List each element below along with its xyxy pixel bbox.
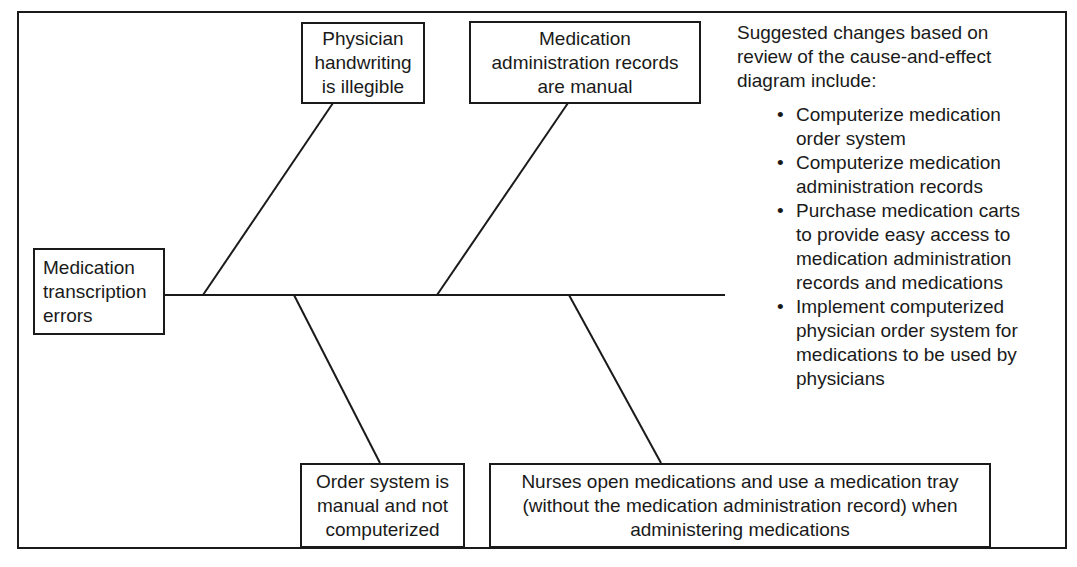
cause-line: is illegible — [303, 75, 423, 99]
suggested-changes: Suggested changes based on review of the… — [737, 21, 1057, 391]
intro-line: diagram include: — [737, 69, 1057, 93]
cause-line: administering medications — [491, 518, 989, 542]
cause-box-nurses-medication-tray: Nurses open medications and use a medica… — [489, 463, 991, 548]
bone-nurses-medication-tray — [569, 295, 661, 463]
cause-line: Nurses open medications and use a medica… — [491, 470, 989, 494]
suggestion-line: Computerize medication — [796, 151, 1057, 175]
suggestion-item: • Computerize medication administration … — [777, 151, 1057, 199]
bone-administration-records — [437, 103, 568, 295]
cause-line: handwriting — [303, 51, 423, 75]
cause-line: Medication — [471, 27, 699, 51]
suggestion-item: • Computerize medication order system — [777, 103, 1057, 151]
bullet-icon: • — [777, 103, 784, 127]
suggestion-line: order system — [796, 127, 1057, 151]
suggestion-line: Purchase medication carts — [796, 199, 1057, 223]
cause-line: Order system is — [302, 470, 463, 494]
cause-box-administration-records: Medication administration records are ma… — [469, 21, 701, 104]
cause-box-physician-handwriting: Physician handwriting is illegible — [301, 22, 425, 104]
bone-physician-handwriting — [203, 103, 333, 295]
suggestion-line: physician order system for — [796, 319, 1057, 343]
suggestion-line: Computerize medication — [796, 103, 1057, 127]
cause-line: Physician — [303, 27, 423, 51]
suggestion-line: to provide easy access to — [796, 223, 1057, 247]
effect-line: transcription — [43, 280, 163, 304]
suggestion-line: administration records — [796, 175, 1057, 199]
effect-box: Medication transcription errors — [33, 248, 165, 335]
suggestion-line: Implement computerized — [796, 295, 1057, 319]
intro-line: Suggested changes based on — [737, 21, 1057, 45]
suggestion-line: records and medications — [796, 271, 1057, 295]
effect-line: Medication — [43, 256, 163, 280]
cause-line: computerized — [302, 518, 463, 542]
bullet-icon: • — [777, 295, 784, 319]
suggestions-list: • Computerize medication order system • … — [737, 103, 1057, 391]
suggestion-item: • Purchase medication carts to provide e… — [777, 199, 1057, 295]
suggestion-line: medications to be used by — [796, 343, 1057, 367]
cause-line: administration records — [471, 51, 699, 75]
effect-line: errors — [43, 304, 163, 328]
cause-line: are manual — [471, 75, 699, 99]
suggestion-item: • Implement computerized physician order… — [777, 295, 1057, 391]
suggestion-line: medication administration — [796, 247, 1057, 271]
cause-line: (without the medication administration r… — [491, 494, 989, 518]
cause-line: manual and not — [302, 494, 463, 518]
bullet-icon: • — [777, 151, 784, 175]
bone-order-system — [294, 295, 380, 463]
cause-box-order-system: Order system is manual and not computeri… — [300, 463, 465, 548]
suggestion-line: physicians — [796, 367, 1057, 391]
suggested-changes-intro: Suggested changes based on review of the… — [737, 21, 1057, 93]
bullet-icon: • — [777, 199, 784, 223]
intro-line: review of the cause-and-effect — [737, 45, 1057, 69]
